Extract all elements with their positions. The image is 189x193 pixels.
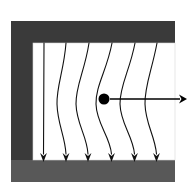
magnet-left-arm bbox=[11, 21, 33, 182]
magnet-bottom-arm bbox=[11, 160, 175, 182]
diagram-canvas bbox=[0, 0, 189, 193]
field-line-1 bbox=[44, 43, 45, 154]
magnet-top-arm bbox=[11, 21, 175, 43]
physics-diagram-figure bbox=[0, 0, 189, 193]
magnet-yoke bbox=[11, 21, 175, 182]
charged-particle bbox=[99, 94, 110, 105]
